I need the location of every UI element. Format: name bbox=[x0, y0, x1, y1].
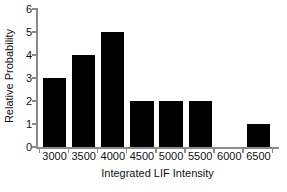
y-tick-mark bbox=[32, 77, 38, 79]
x-axis-tick-labels: 30003500400045005000550060006500 bbox=[36, 150, 279, 164]
bar bbox=[247, 124, 270, 147]
y-tick-mark bbox=[32, 100, 38, 102]
bar bbox=[72, 55, 95, 147]
bar-chart-figure: Relative Probability 0123456 30003500400… bbox=[0, 0, 287, 192]
y-tick-label: 4 bbox=[16, 50, 32, 61]
x-axis-title: Integrated LIF Intensity bbox=[36, 167, 279, 179]
y-axis-title-text: Relative Probability bbox=[3, 29, 15, 123]
bars-layer bbox=[36, 8, 279, 148]
bar bbox=[130, 101, 153, 147]
x-tick-label: 6000 bbox=[215, 150, 244, 163]
y-tick-mark bbox=[32, 123, 38, 125]
y-tick-label: 3 bbox=[16, 73, 32, 84]
x-tick-label: 5500 bbox=[186, 150, 215, 163]
x-tick-label: 4000 bbox=[98, 150, 127, 163]
x-tick-label: 3000 bbox=[40, 150, 69, 163]
bar bbox=[189, 101, 212, 147]
bar bbox=[159, 101, 182, 147]
bar bbox=[43, 78, 66, 147]
y-tick-mark bbox=[32, 8, 38, 10]
plot-area bbox=[36, 8, 279, 148]
y-tick-label: 2 bbox=[16, 96, 32, 107]
x-tick-label: 3500 bbox=[69, 150, 98, 163]
x-tick-label: 5000 bbox=[157, 150, 186, 163]
x-tick-label: 6500 bbox=[244, 150, 273, 163]
y-tick-label: 1 bbox=[16, 119, 32, 130]
y-tick-label: 0 bbox=[16, 142, 32, 153]
bar bbox=[101, 32, 124, 147]
y-tick-mark bbox=[32, 31, 38, 33]
y-tick-label: 5 bbox=[16, 27, 32, 38]
x-tick-label: 4500 bbox=[127, 150, 156, 163]
y-tick-mark bbox=[32, 146, 38, 148]
y-tick-label: 6 bbox=[16, 4, 32, 15]
y-axis-tick-labels: 0123456 bbox=[16, 8, 32, 148]
y-tick-mark bbox=[32, 54, 38, 56]
